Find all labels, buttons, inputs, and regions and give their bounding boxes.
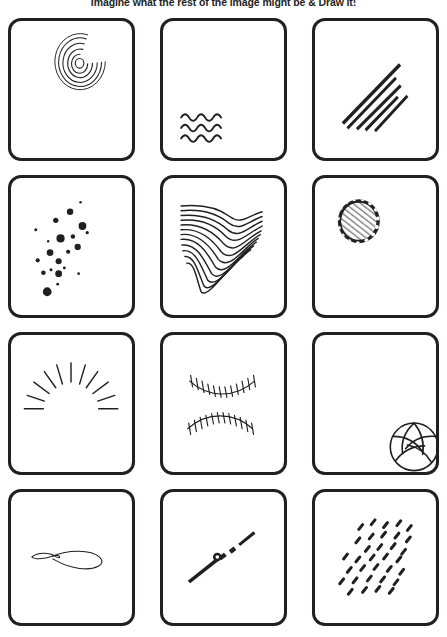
drawing-card-ripple-rings[interactable] [8,18,135,161]
drawing-card-water-waves[interactable] [160,18,287,161]
volleyball-icon [315,335,436,472]
loop-line-icon [11,492,132,623]
card-grid [8,18,439,632]
drawing-card-loop-line[interactable] [8,489,135,626]
page-title: Imagine what the rest of the image might… [0,0,447,8]
drawing-card-falling-dashes[interactable] [312,489,439,626]
drawing-card-scattered-dots[interactable] [8,175,135,318]
falling-dashes-icon [315,492,436,623]
ripple-rings-icon [11,21,132,158]
golf-ball-icon [315,178,436,315]
drawing-card-needle-dart[interactable] [160,489,287,626]
drawing-card-golf-ball[interactable] [312,175,439,318]
speed-lines-icon [315,21,436,158]
drawing-card-flowing-lines[interactable] [160,175,287,318]
sunburst-rays-icon [11,335,132,472]
baseball-stitches-icon [163,335,284,472]
water-waves-icon [163,21,284,158]
drawing-card-sunburst-rays[interactable] [8,332,135,475]
drawing-card-volleyball[interactable] [312,332,439,475]
drawing-card-baseball-stitches[interactable] [160,332,287,475]
scattered-dots-icon [11,178,132,315]
flowing-lines-icon [163,178,284,315]
drawing-card-speed-lines[interactable] [312,18,439,161]
drawing-worksheet: Imagine what the rest of the image might… [0,0,447,637]
needle-dart-icon [163,492,284,623]
